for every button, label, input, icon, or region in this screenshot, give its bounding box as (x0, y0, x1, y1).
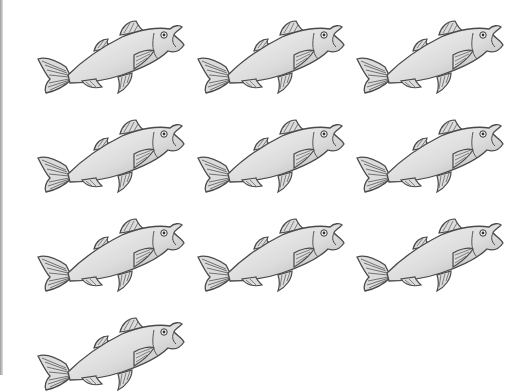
fish-icon (196, 17, 346, 95)
fish-illustration (196, 215, 346, 293)
fish-icon (196, 116, 346, 194)
fish-icon (36, 116, 186, 194)
fish-illustration (36, 215, 186, 293)
fish-illustration (196, 17, 346, 95)
page-edge (0, 0, 3, 375)
fish-illustration (36, 116, 186, 194)
fish-icon (36, 314, 186, 392)
fish-illustration (355, 116, 505, 194)
fish-icon (36, 17, 186, 95)
fish-icon (355, 215, 505, 293)
fish-icon (355, 17, 505, 95)
fish-illustration (355, 215, 505, 293)
fish-illustration (36, 314, 186, 392)
fish-icon (355, 116, 505, 194)
fish-illustration (196, 116, 346, 194)
fish-illustration (355, 17, 505, 95)
fish-icon (36, 215, 186, 293)
fish-icon (196, 215, 346, 293)
fish-illustration (36, 17, 186, 95)
